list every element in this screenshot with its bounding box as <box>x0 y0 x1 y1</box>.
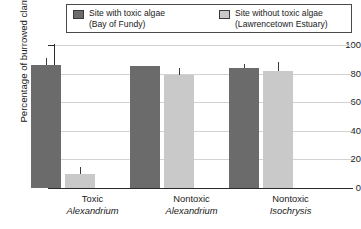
legend-entry-site-with-toxic-algae: Site with toxic algae (Bay of Fundy) <box>73 8 219 29</box>
gridline <box>55 159 352 160</box>
legend-label-primary: Site without toxic algae <box>235 8 323 18</box>
error-bar <box>244 64 245 68</box>
legend-label-group: Site with toxic algae (Bay of Fundy) <box>89 8 165 29</box>
category-line-1: Nontoxic <box>272 193 308 204</box>
error-bar <box>179 68 180 75</box>
y-tick-mark <box>48 188 55 189</box>
category-line-1: Toxic <box>82 193 103 204</box>
legend-label-group: Site without toxic algae (Lawrencetown E… <box>235 8 328 29</box>
bar <box>229 68 259 188</box>
category-species-name: Isochrysis <box>231 205 351 217</box>
chart-legend: Site with toxic algae (Bay of Fundy) Sit… <box>66 4 352 33</box>
y-axis-title: Percentage of burrowed clams <box>18 0 29 128</box>
gridline <box>55 102 352 103</box>
bar <box>130 66 160 188</box>
x-axis-line <box>48 188 353 189</box>
bar-chart-figure: Site with toxic algae (Bay of Fundy) Sit… <box>0 0 361 229</box>
legend-swatch-light <box>219 10 230 19</box>
bar <box>164 75 194 188</box>
error-bar <box>278 62 279 71</box>
legend-label-sub: (Lawrencetown Estuary) <box>235 19 328 30</box>
x-category-label: NontoxicIsochrysis <box>231 193 351 216</box>
legend-swatch-dark <box>73 10 84 19</box>
gridline <box>55 131 352 132</box>
legend-label-sub: (Bay of Fundy) <box>89 19 165 30</box>
bar <box>31 65 61 188</box>
legend-entry-site-without-toxic-algae: Site without toxic algae (Lawrencetown E… <box>219 8 328 29</box>
gridline <box>55 74 352 75</box>
error-bar <box>80 167 81 174</box>
y-tick-mark <box>48 45 55 46</box>
gridline <box>55 45 352 46</box>
legend-label-primary: Site with toxic algae <box>89 8 165 18</box>
error-bar <box>46 58 47 65</box>
bar <box>65 174 95 188</box>
plot-area <box>55 45 352 188</box>
category-line-1: Nontoxic <box>173 193 209 204</box>
bar <box>263 71 293 188</box>
